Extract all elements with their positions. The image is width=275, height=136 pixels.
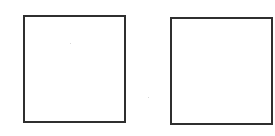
noise-speck xyxy=(148,97,149,98)
right-square xyxy=(170,17,273,125)
noise-speck xyxy=(70,43,71,44)
left-square xyxy=(23,15,126,123)
